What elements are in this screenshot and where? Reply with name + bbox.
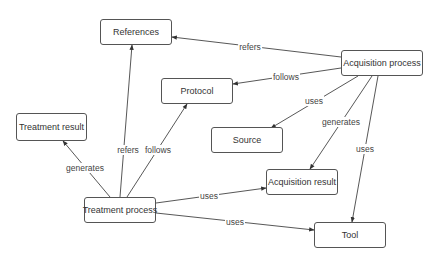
node-acquisition-result[interactable]: Acquisition result xyxy=(266,169,338,195)
edge-label-generates: generates xyxy=(321,117,361,127)
node-tool[interactable]: Tool xyxy=(314,222,386,248)
edge-label-uses: uses xyxy=(304,96,324,106)
node-label: Tool xyxy=(342,230,359,240)
edge-label-refers: refers xyxy=(116,145,140,155)
node-label: References xyxy=(113,27,159,37)
edge-label-follows: follows xyxy=(272,72,300,82)
node-acquisition-process[interactable]: Acquisition process xyxy=(341,50,423,76)
edge-label-follows: follows xyxy=(144,145,172,155)
node-protocol[interactable]: Protocol xyxy=(161,78,233,104)
edge-label-uses: uses xyxy=(199,191,219,201)
node-label: Acquisition process xyxy=(343,58,421,68)
edge-label-refers: refers xyxy=(238,42,262,52)
node-label: Protocol xyxy=(180,86,213,96)
node-label: Treatment result xyxy=(19,122,84,132)
edge-label-uses: uses xyxy=(355,144,375,154)
node-source[interactable]: Source xyxy=(211,127,283,153)
node-treatment-result[interactable]: Treatment result xyxy=(16,113,87,141)
node-treatment-process[interactable]: Treatment process xyxy=(84,197,156,223)
node-label: Acquisition result xyxy=(268,177,336,187)
node-references[interactable]: References xyxy=(100,19,172,45)
edge-label-generates: generates xyxy=(65,163,105,173)
edge-label-uses: uses xyxy=(225,217,245,227)
edge-treatment-process-to-references xyxy=(120,45,132,197)
node-label: Source xyxy=(233,135,262,145)
node-label: Treatment process xyxy=(83,205,158,215)
